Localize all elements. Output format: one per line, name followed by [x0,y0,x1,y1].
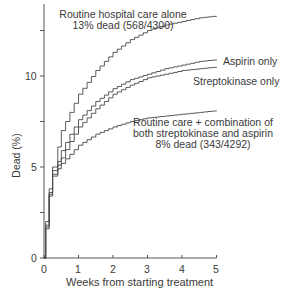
y-tick-label-5: 5 [31,162,37,173]
y-tick-label-0: 0 [31,253,37,264]
x-tick-label-0: 0 [41,264,47,275]
x-axis-label: Weeks from starting treatment [66,277,213,288]
x-tick-label-1: 1 [75,264,81,275]
x-tick-label-4: 4 [179,264,185,275]
x-tick-label-3: 3 [144,264,150,275]
annotation-routine-line2: 13% dead (568/4300) [48,20,198,31]
y-axis-label: Dead (%) [11,133,22,177]
annotation-aspirin: Aspirin only [223,56,277,67]
curve-streptokinase [44,67,217,258]
x-tick-label-2: 2 [110,264,116,275]
y-tick-label-10: 10 [25,71,37,82]
x-tick-label-5: 5 [213,264,219,275]
annotation-combination-line3: 8% dead (343/4292) [127,139,279,150]
annotation-streptokinase: Streptokinase only [193,76,279,87]
annotation-combination: Routine care + combination of both strep… [127,117,279,150]
annotation-routine: Routine hospital care alone 13% dead (56… [48,9,198,31]
